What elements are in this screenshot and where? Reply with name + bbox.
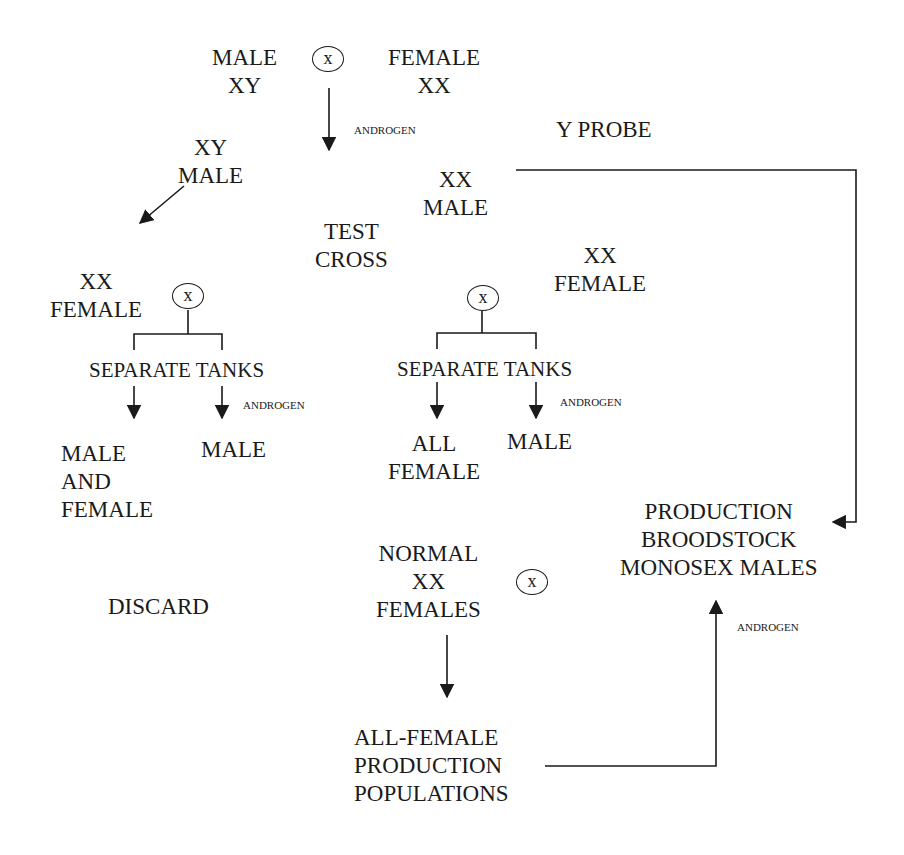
arrow-y-probe	[516, 170, 856, 522]
flow-diagram: MALE XY x FEMALE XX ANDROGEN XY MALE Y P…	[0, 0, 904, 855]
cross-symbol-icon: x	[312, 46, 344, 72]
arrow-xy-male-to-cross	[140, 186, 184, 223]
node-left-male: MALE	[201, 436, 266, 464]
label-androgen-left: ANDROGEN	[243, 399, 305, 411]
node-mid-male: MALE	[507, 428, 572, 456]
label-y-probe: Y PROBE	[556, 116, 652, 144]
node-mid-all-female: ALL FEMALE	[388, 430, 480, 486]
node-parent-female: FEMALE XX	[388, 44, 480, 100]
node-left-male-and-female: MALE AND FEMALE	[61, 440, 153, 524]
node-normal-xx-females: NORMAL XX FEMALES	[376, 540, 481, 624]
arrow-androgen-bottom	[545, 601, 716, 766]
cross-symbol-icon: x	[516, 569, 548, 595]
mid-bracket	[437, 333, 536, 349]
node-mid-xx-female: XX FEMALE	[554, 242, 646, 298]
label-androgen-bottom: ANDROGEN	[737, 621, 799, 633]
node-test-cross: TEST CROSS	[315, 218, 388, 274]
cross-symbol-icon: x	[172, 283, 204, 309]
node-left-separate-tanks: SEPARATE TANKS	[89, 356, 264, 384]
node-left-xx-female: XX FEMALE	[50, 268, 142, 324]
label-androgen-top: ANDROGEN	[354, 124, 416, 136]
node-xy-male: XY MALE	[178, 134, 243, 190]
node-all-female-production: ALL-FEMALE PRODUCTION POPULATIONS	[354, 724, 509, 808]
node-discard: DISCARD	[108, 593, 209, 621]
node-mid-separate-tanks: SEPARATE TANKS	[397, 355, 572, 383]
cross-symbol-icon: x	[467, 285, 499, 311]
node-parent-male: MALE XY	[212, 44, 277, 100]
left-bracket	[134, 334, 222, 350]
node-xx-male: XX MALE	[423, 166, 488, 222]
label-androgen-mid: ANDROGEN	[560, 396, 622, 408]
node-production-broodstock: PRODUCTION BROODSTOCK MONOSEX MALES	[620, 498, 817, 582]
